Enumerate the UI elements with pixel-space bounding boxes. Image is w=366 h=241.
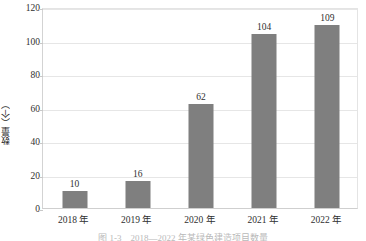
bar-value-label: 10	[70, 179, 80, 189]
y-axis-tick-label: 80	[14, 70, 40, 80]
x-axis-tick-label: 2020 年	[184, 212, 215, 226]
y-axis-tick-label: 40	[14, 137, 40, 147]
x-axis-tick-label: 2022 年	[311, 212, 342, 226]
bar-group: 104	[233, 9, 296, 208]
bar-value-label: 62	[196, 92, 206, 102]
bar[interactable]	[125, 181, 150, 208]
bar-value-label: 104	[257, 22, 271, 32]
bar-group: 10	[43, 9, 106, 208]
y-axis-tick-label: 0	[14, 204, 40, 214]
x-axis-tick-label: 2018 年	[58, 212, 89, 226]
bar-value-label: 16	[133, 169, 143, 179]
y-axis-title: 数量（个）	[0, 88, 14, 158]
chart-screenshot: 数量（个） 020406080100120 101662104109 2018 …	[0, 0, 366, 241]
bar-group: 109	[296, 9, 359, 208]
bar[interactable]	[188, 104, 213, 208]
figure-caption: 图 1-3 2018—2022 年某绿色建造项目数量	[0, 231, 366, 241]
bar-value-label: 109	[320, 13, 334, 23]
bar[interactable]	[315, 25, 340, 208]
y-axis-tick-mark	[39, 210, 43, 211]
y-axis-tick-label: 100	[14, 37, 40, 47]
y-axis-tick-label: 120	[14, 3, 40, 13]
bar-group: 62	[169, 9, 232, 208]
y-axis-tick-labels: 020406080100120	[14, 0, 40, 241]
plot-area: 101662104109	[42, 8, 358, 209]
bar-group: 16	[106, 9, 169, 208]
x-axis-tick-label: 2019 年	[121, 212, 152, 226]
bar[interactable]	[62, 191, 87, 208]
bar[interactable]	[252, 34, 277, 208]
x-axis-tick-label: 2021 年	[248, 212, 279, 226]
x-axis-tick-labels: 2018 年2019 年2020 年2021 年2022 年	[42, 212, 358, 226]
y-axis-tick-label: 60	[14, 104, 40, 114]
y-axis-tick-label: 20	[14, 171, 40, 181]
